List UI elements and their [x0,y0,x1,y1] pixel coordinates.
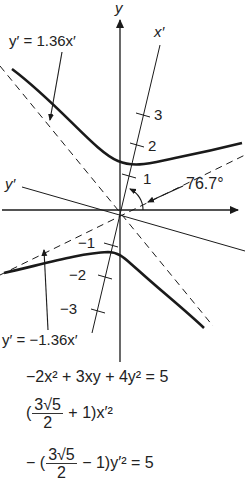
equation-rotated-line1: (3√52 + 1)x′² [26,396,113,431]
eq2-numerator: 3√5 [46,446,77,464]
eq2-suffix: − 1)y′² = 5 [82,454,153,471]
x-prime-axis-label: x′ [154,24,164,39]
hyperbola-upper-branch [12,69,242,164]
asymptote-lower-label: y′ = −1.36x′ [2,332,78,347]
eq2-fraction: 3√52 [46,446,77,481]
eq1-denominator: 2 [32,414,63,431]
tick-label-neg2: −2 [69,267,86,282]
eq1-suffix: + 1)x′² [68,404,112,421]
tick-label-1: 1 [143,171,151,186]
eq1-fraction: 3√52 [32,396,63,431]
asymptote-upper-label: y′ = 1.36x′ [9,33,76,48]
eq2-prefix: − ( [26,454,45,471]
equation-rotated-line2: − (3√52 − 1)y′² = 5 [26,446,154,481]
rotation-angle-label: 76.7° [186,176,224,192]
tick-label-3: 3 [154,107,162,122]
asymptote-upper-line [0,66,213,326]
angle-pointer [148,186,183,202]
tick-label-2: 2 [148,138,156,153]
eq1-numerator: 3√5 [32,396,63,414]
x-prime-axis [92,45,160,333]
angle-arc [130,189,143,210]
tick-label-neg3: −3 [60,301,77,316]
hyperbola-lower-branch [4,252,204,328]
eq2-denominator: 2 [46,464,77,481]
y-prime-axis-label: y′ [5,176,15,191]
eq1-prefix: ( [26,404,31,421]
equation-original: −2x² + 3xy + 4y² = 5 [26,368,168,386]
tick-label-neg1: −1 [78,235,95,250]
y-prime-axis [22,187,245,251]
y-axis-label: y [115,0,123,15]
